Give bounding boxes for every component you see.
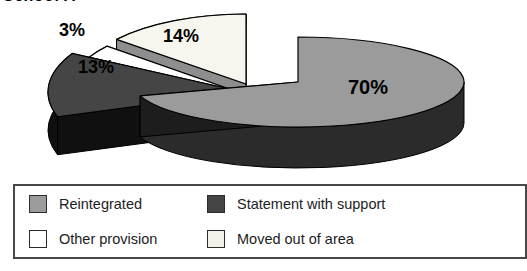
legend-swatch-reintegrated: [29, 195, 47, 213]
pie-chart-3d: 14%3%13%70%: [0, 0, 524, 182]
slice-percent-label: 3%: [59, 20, 85, 40]
legend-item-statement-with-support: Statement with support: [207, 195, 525, 213]
legend-swatch-other-provision: [29, 230, 47, 248]
slice-percent-label: 13%: [78, 57, 114, 77]
legend-label: Other provision: [59, 231, 157, 247]
legend-item-other-provision: Other provision: [29, 230, 207, 248]
legend-label: Reintegrated: [59, 196, 142, 212]
legend-swatch-moved-out-of-area: [207, 230, 225, 248]
slice-percent-label: 70%: [348, 76, 388, 98]
legend-item-moved-out-of-area: Moved out of area: [207, 230, 525, 248]
chart-legend: Reintegrated Statement with support Othe…: [13, 184, 527, 259]
legend-label: Moved out of area: [237, 231, 354, 247]
legend-item-reintegrated: Reintegrated: [29, 195, 207, 213]
legend-label: Statement with support: [237, 196, 385, 212]
slice-percent-label: 14%: [163, 26, 199, 46]
legend-swatch-statement-with-support: [207, 195, 225, 213]
